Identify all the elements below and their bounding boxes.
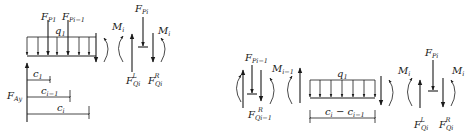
- c1-label: c1: [33, 68, 43, 81]
- fqir-label-right: FQiR: [438, 116, 453, 132]
- q1-label: q1: [55, 25, 66, 38]
- moment-arc-icon: [161, 38, 165, 62]
- fqil-label-right: FQiL: [413, 116, 428, 132]
- distributed-load-q1-right: q1: [310, 68, 375, 98]
- moment-arc-icon: [408, 78, 413, 106]
- mi-label-right-2: Mi: [451, 65, 464, 78]
- fay-label: FAy: [6, 90, 22, 103]
- q1-label-right: q1: [337, 68, 348, 81]
- fqi-1r-label: FQi−1R: [247, 106, 272, 122]
- mi-label-1: Mi: [111, 21, 124, 34]
- ci-1-label: ci−1: [41, 85, 58, 98]
- moment-arc-icon: [119, 36, 124, 62]
- moment-arc-icon: [270, 78, 274, 104]
- moment-arc-icon: [237, 75, 242, 102]
- fpi-1-label: FPi−1: [61, 11, 85, 24]
- mi-1-label: Mi−1: [271, 63, 294, 76]
- moment-arc-icon: [104, 38, 108, 62]
- beam-diagram: q1 FP1 FPi−1 Mi FPi FQiL FQiR Mi FAy c1: [0, 0, 467, 139]
- fqil-label: FQiL: [125, 72, 140, 88]
- fp1-label: FP1: [40, 11, 56, 24]
- mi-label-2: Mi: [157, 25, 170, 38]
- moment-arc-icon: [451, 80, 455, 106]
- fpi-1-label-right: FPi−1: [244, 52, 268, 65]
- fpi-label-right: FPi: [424, 47, 438, 60]
- left-diagram: q1 FP1 FPi−1 Mi FPi FQiL FQiR Mi FAy c1: [6, 3, 170, 122]
- moment-arc-icon: [389, 80, 393, 106]
- ci-label: ci: [57, 102, 65, 115]
- fpi-label-left: FPi: [134, 3, 148, 16]
- right-diagram: FPi−1 FQi−1R Mi−1 q1 ci: [237, 47, 465, 132]
- fqir-label: FQiR: [147, 72, 162, 88]
- distributed-load-q1-left: q1: [27, 25, 96, 56]
- moment-arc-icon: [288, 76, 293, 104]
- mi-label-right-1: Mi: [397, 65, 410, 78]
- dim-label: ci − ci−1: [325, 106, 365, 119]
